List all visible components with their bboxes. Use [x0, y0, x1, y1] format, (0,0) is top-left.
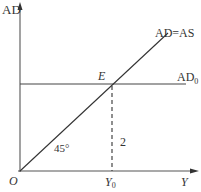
ad-equals-as-line [20, 33, 168, 171]
origin-label: O [9, 174, 18, 188]
dashed-line-label: 2 [120, 135, 126, 149]
y0-label: Y0 [105, 175, 116, 190]
ad0-subscript: 0 [194, 77, 198, 86]
angle-label: 45° [54, 142, 69, 154]
ad0-label: AD0 [177, 70, 198, 86]
intersection-label-e: E [97, 69, 106, 83]
y0-subscript: 0 [112, 181, 116, 190]
x-axis-arrow-icon [190, 169, 199, 174]
ad-as-label: AD=AS [155, 26, 194, 40]
ad-as-diagram: AD AD=AS AD0 E 45° 2 O Y0 Y [0, 0, 201, 192]
x-axis-label: Y [181, 175, 189, 189]
y-axis-label: AD [2, 2, 21, 17]
